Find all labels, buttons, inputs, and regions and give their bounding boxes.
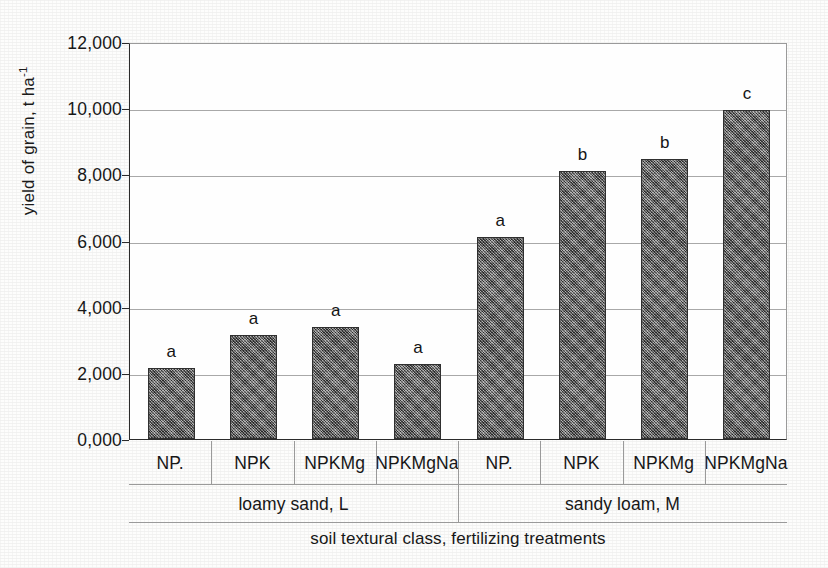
y-tick-mark xyxy=(122,109,129,110)
bar-significance-letter: a xyxy=(331,301,340,321)
gridline xyxy=(130,110,786,111)
bar-significance-letter: b xyxy=(578,145,587,165)
x-axis-treatment-label: NPK xyxy=(211,441,293,485)
bar xyxy=(394,364,441,439)
bar xyxy=(477,237,524,439)
x-axis-cell-separator xyxy=(705,441,706,485)
x-axis-cell-separator xyxy=(458,441,459,485)
y-tick-label: 2,000 xyxy=(12,363,122,384)
y-tick-mark xyxy=(122,175,129,176)
x-axis-group-label: loamy sand, L xyxy=(129,485,458,523)
y-tick-label: 12,000 xyxy=(12,33,122,54)
y-tick-label: 8,000 xyxy=(12,165,122,186)
bar xyxy=(312,327,359,439)
x-axis-cell-separator xyxy=(211,441,212,485)
y-tick-label: 6,000 xyxy=(12,231,122,252)
bar-significance-letter: a xyxy=(413,338,422,358)
bar-significance-letter: c xyxy=(743,84,752,104)
y-tick-mark xyxy=(122,440,129,441)
x-axis-title: soil textural class, fertilizing treatme… xyxy=(129,529,787,549)
x-axis-cell-separator xyxy=(540,441,541,485)
y-tick-mark xyxy=(122,374,129,375)
bar xyxy=(559,171,606,439)
y-tick-mark xyxy=(122,242,129,243)
plot-area: aaaaabbc xyxy=(129,43,787,440)
x-axis-treatment-label: NPKMg xyxy=(623,441,705,485)
bar xyxy=(230,335,277,439)
x-axis-treatment-label: NPKMgNa xyxy=(705,441,787,485)
x-axis-treatment-label: NP. xyxy=(458,441,540,485)
x-axis-treatment-labels: NP.NPKNPKMgNPKMgNaNP.NPKNPKMgNPKMgNa xyxy=(129,441,787,485)
bar-significance-letter: a xyxy=(249,309,258,329)
x-axis-treatment-label: NPK xyxy=(540,441,622,485)
bar xyxy=(641,159,688,439)
x-axis-group-separator xyxy=(458,485,459,523)
y-axis-title-exponent: -1 xyxy=(17,66,29,77)
x-axis-group-labels: loamy sand, Lsandy loam, M xyxy=(129,485,787,523)
figure-canvas: yield of grain, t ha-1 12,00010,0008,000… xyxy=(0,0,828,568)
x-axis-cell-separator xyxy=(376,441,377,485)
x-axis-cell-separator xyxy=(623,441,624,485)
y-tick-mark xyxy=(122,308,129,309)
bar-significance-letter: b xyxy=(660,133,669,153)
x-axis-cell-separator xyxy=(294,441,295,485)
y-tick-label: 0,000 xyxy=(12,430,122,451)
y-tick-mark xyxy=(122,43,129,44)
x-axis-treatment-label: NP. xyxy=(129,441,211,485)
x-axis-treatment-label: NPKMg xyxy=(294,441,376,485)
y-tick-label: 4,000 xyxy=(12,297,122,318)
x-axis-treatment-label: NPKMgNa xyxy=(376,441,458,485)
bar xyxy=(723,110,770,439)
x-axis-group-label: sandy loam, M xyxy=(458,485,787,523)
bar xyxy=(148,368,195,439)
y-tick-label: 10,000 xyxy=(12,99,122,120)
bar-significance-letter: a xyxy=(166,342,175,362)
bar-significance-letter: a xyxy=(495,211,504,231)
